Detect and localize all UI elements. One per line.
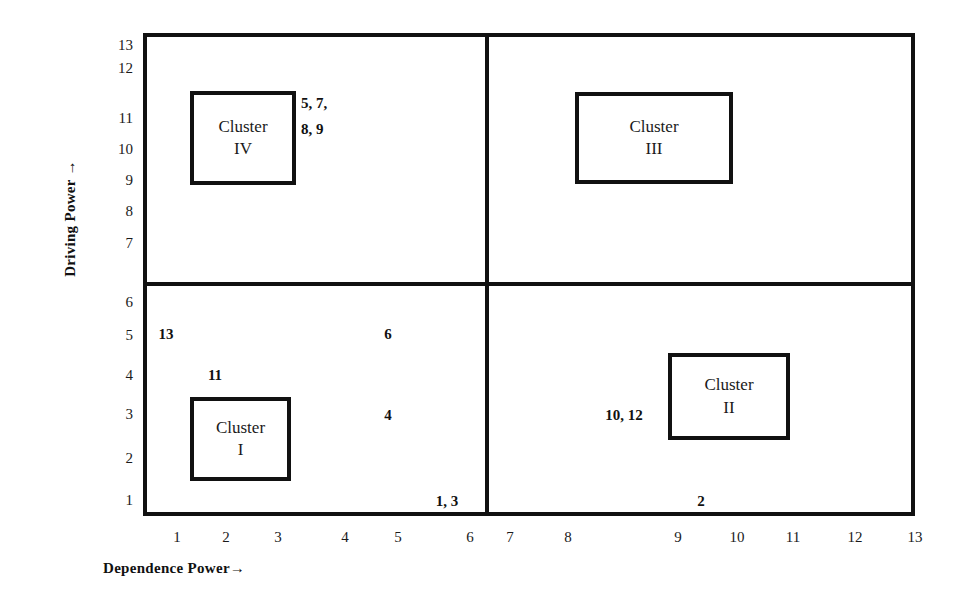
y-tick-7: 7 <box>107 235 133 252</box>
cluster-i-line1: Cluster <box>216 417 265 439</box>
point-label-1-3: 1, 3 <box>436 493 459 510</box>
cluster-iv-box[interactable]: Cluster IV <box>190 91 296 185</box>
y-tick-3: 3 <box>107 406 133 423</box>
cluster-ii-box[interactable]: Cluster II <box>668 353 790 440</box>
cluster-iii-line1: Cluster <box>629 116 678 138</box>
x-tick-12: 12 <box>842 529 868 546</box>
point-label-5-7: 5, 7, <box>301 93 327 114</box>
cluster-iv-line1: Cluster <box>218 116 267 138</box>
y-tick-9: 9 <box>107 172 133 189</box>
cluster-iii-line2: III <box>646 138 663 160</box>
y-tick-6: 6 <box>107 294 133 311</box>
quadrant-divider-horizontal <box>143 282 915 286</box>
x-tick-3: 3 <box>265 529 291 546</box>
x-tick-4: 4 <box>332 529 358 546</box>
x-tick-10: 10 <box>724 529 750 546</box>
x-tick-11: 11 <box>780 529 806 546</box>
y-axis-title: Driving Power → <box>62 119 79 319</box>
x-tick-8: 8 <box>555 529 581 546</box>
x-tick-6: 6 <box>457 529 483 546</box>
x-tick-5: 5 <box>385 529 411 546</box>
cluster-iii-box[interactable]: Cluster III <box>575 92 733 184</box>
y-tick-13: 13 <box>107 37 133 54</box>
point-label-8-9: 8, 9 <box>301 119 324 140</box>
y-tick-4: 4 <box>107 367 133 384</box>
y-tick-8: 8 <box>107 203 133 220</box>
cluster-i-box[interactable]: Cluster I <box>190 397 291 481</box>
x-tick-13: 13 <box>902 529 928 546</box>
y-tick-2: 2 <box>107 450 133 467</box>
x-tick-1: 1 <box>164 529 190 546</box>
point-label-13: 13 <box>159 326 174 343</box>
x-tick-9: 9 <box>665 529 691 546</box>
y-tick-11: 11 <box>107 110 133 127</box>
y-tick-10: 10 <box>107 141 133 158</box>
point-label-10-12: 10, 12 <box>605 407 643 424</box>
cluster-ii-line1: Cluster <box>704 374 753 396</box>
point-label-6: 6 <box>384 326 392 343</box>
x-tick-2: 2 <box>213 529 239 546</box>
quadrant-divider-vertical <box>485 33 489 516</box>
y-tick-5: 5 <box>107 327 133 344</box>
micmac-cluster-chart: Driving Power → Dependence Power→ 13 12 … <box>0 0 956 608</box>
y-tick-1: 1 <box>107 492 133 509</box>
point-label-4: 4 <box>384 407 392 424</box>
point-label-11: 11 <box>208 367 222 384</box>
x-axis-title: Dependence Power→ <box>103 560 245 577</box>
x-tick-7: 7 <box>497 529 523 546</box>
cluster-i-line2: I <box>238 439 244 461</box>
y-tick-12: 12 <box>107 60 133 77</box>
point-label-2: 2 <box>697 493 705 510</box>
cluster-ii-line2: II <box>723 397 734 419</box>
cluster-iv-line2: IV <box>234 138 252 160</box>
